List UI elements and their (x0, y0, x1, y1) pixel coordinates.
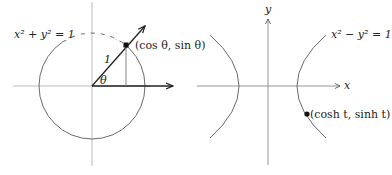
radius-label: 1 (104, 54, 111, 65)
hyperbola-left-branch (210, 35, 239, 138)
unit-circle-figure (13, 2, 173, 166)
hyperbola-figure (197, 19, 340, 165)
y-axis-label: y (265, 4, 271, 15)
x-axis-label: x (344, 80, 350, 91)
circle-point-marker (124, 43, 129, 48)
hyperbola-point-marker (304, 111, 309, 116)
circle-point-label: (cos θ, sin θ) (135, 40, 206, 51)
hyperbola-point-label: (cosh t, sinh t) (310, 109, 390, 120)
circle-equation-label: x² + y² = 1 (14, 29, 75, 40)
hyperbola-right-branch (297, 35, 326, 138)
angle-label: θ (100, 75, 107, 86)
hyperbola-equation-label: x² − y² = 1 (331, 29, 392, 40)
unit-circle-dashed-arc (66, 33, 126, 45)
